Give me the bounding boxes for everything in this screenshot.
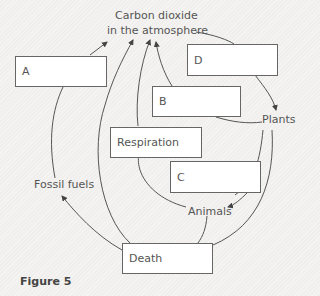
box-a[interactable]: A — [15, 56, 107, 87]
box-respiration: Respiration — [110, 127, 202, 158]
box-a-label: A — [22, 65, 30, 78]
plants-label: Plants — [262, 113, 295, 126]
box-d[interactable]: D — [187, 44, 278, 76]
box-d-label: D — [194, 54, 202, 67]
box-b[interactable]: B — [152, 86, 241, 117]
animals-label: Animals — [188, 205, 232, 218]
fossil-fuels-label: Fossil fuels — [34, 178, 94, 191]
box-c[interactable]: C — [170, 161, 261, 193]
figure-caption: Figure 5 — [20, 275, 71, 288]
box-death: Death — [122, 243, 213, 274]
co2-label-line2: in the atmosphere — [107, 24, 208, 37]
box-b-label: B — [159, 95, 167, 108]
box-c-label: C — [177, 171, 185, 184]
co2-label-line1: Carbon dioxide — [115, 9, 198, 22]
box-death-label: Death — [129, 252, 162, 265]
box-respiration-label: Respiration — [117, 136, 179, 149]
